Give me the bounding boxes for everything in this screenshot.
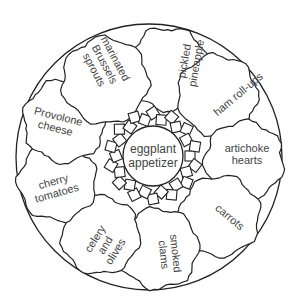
garnish-cube: [156, 115, 167, 126]
platter-diagram: pickledpineappleham roll-upsartichokehea…: [0, 0, 301, 304]
garnish-cube: [114, 124, 124, 134]
garnish-cube: [180, 166, 192, 178]
garnish-cube: [124, 179, 136, 191]
garnish-cube: [189, 141, 200, 152]
center-label: eggplantappetizer: [128, 142, 177, 170]
label-smoked-clams: smokedclams: [156, 234, 184, 275]
